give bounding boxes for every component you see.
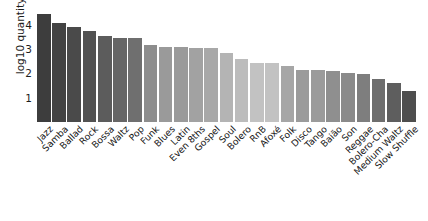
bar <box>159 47 173 122</box>
bar <box>402 91 416 122</box>
bar <box>67 27 81 122</box>
bar <box>372 79 386 122</box>
x-axis-tick-labels: JazzSambaBalladRockBossaWaltzPopFunkBlue… <box>37 124 416 220</box>
bar-series <box>37 10 416 122</box>
bar <box>98 36 112 122</box>
bar <box>250 63 264 122</box>
bar <box>37 14 51 122</box>
bar <box>326 71 340 122</box>
bar <box>174 47 188 122</box>
bar <box>296 70 310 122</box>
plot-area <box>37 10 416 122</box>
bar <box>128 38 142 122</box>
bar <box>357 74 371 122</box>
bar <box>83 31 97 122</box>
bar <box>52 23 66 122</box>
bar <box>265 63 279 122</box>
bar <box>189 48 203 122</box>
bar <box>281 66 295 122</box>
y-tick-label: 1 <box>22 92 32 104</box>
bar <box>204 48 218 122</box>
bar <box>144 45 158 122</box>
bar <box>311 70 325 122</box>
bar-chart: log10 quantity 1234 JazzSambaBalladRockB… <box>0 0 428 221</box>
bar <box>113 38 127 122</box>
bar <box>220 53 234 122</box>
bar <box>387 83 401 122</box>
bar <box>235 59 249 122</box>
bar <box>341 73 355 122</box>
y-axis-label: log10 quantity <box>14 0 26 86</box>
